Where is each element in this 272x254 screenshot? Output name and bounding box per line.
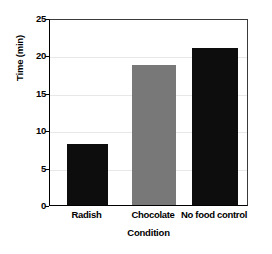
y-axis-tick-label: 10 xyxy=(24,126,46,136)
bar xyxy=(132,65,176,205)
x-axis-title: Condition xyxy=(49,227,248,238)
y-axis-tick-mark xyxy=(45,206,49,207)
x-axis-tick-label-group: RadishChocolateNo food control xyxy=(49,209,248,223)
bar-chart-figure: Time (min) 0510152025 RadishChocolateNo … xyxy=(0,0,271,254)
y-axis-tick-label: 5 xyxy=(24,164,46,174)
y-axis-tick-label: 15 xyxy=(24,89,46,99)
plot-area xyxy=(49,19,248,206)
x-axis-tick-label: No food control xyxy=(115,209,272,221)
bar xyxy=(192,48,238,205)
y-axis-tick-label: 20 xyxy=(24,51,46,61)
bar xyxy=(67,144,108,205)
y-axis-tick-label: 25 xyxy=(24,14,46,24)
